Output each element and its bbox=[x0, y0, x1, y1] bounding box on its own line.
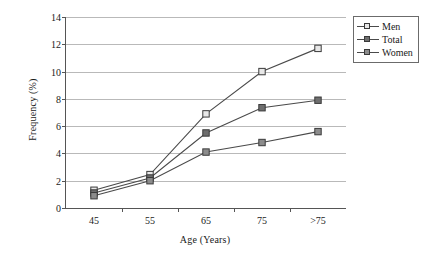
legend-item: Women bbox=[357, 46, 413, 59]
x-axis-title: Age (Years) bbox=[65, 234, 345, 245]
x-tick-mark bbox=[290, 208, 291, 212]
series-line bbox=[94, 132, 318, 196]
data-point-marker bbox=[147, 178, 153, 184]
legend-marker-icon bbox=[357, 47, 379, 58]
y-tick-label: 14 bbox=[51, 12, 61, 23]
data-point-marker bbox=[203, 149, 209, 155]
legend-item: Men bbox=[357, 20, 413, 33]
legend-marker-icon bbox=[357, 21, 379, 32]
x-tick-mark bbox=[178, 208, 179, 212]
y-tick-label: 10 bbox=[51, 66, 61, 77]
y-tick-label: 8 bbox=[56, 93, 61, 104]
y-tick-label: 12 bbox=[51, 39, 61, 50]
data-point-marker bbox=[91, 193, 97, 199]
legend-marker-icon bbox=[357, 34, 379, 45]
data-point-marker bbox=[259, 139, 265, 145]
x-tick-mark bbox=[122, 208, 123, 212]
y-tick-label: 4 bbox=[56, 148, 61, 159]
legend: MenTotalWomen bbox=[353, 16, 419, 63]
data-point-marker bbox=[315, 45, 321, 51]
data-point-marker bbox=[315, 128, 321, 134]
x-tick-label: 45 bbox=[89, 215, 99, 226]
chart-figure: Frequency (%) 02468101214 45556575>75 Ag… bbox=[0, 0, 437, 258]
y-axis-title: Frequency (%) bbox=[27, 40, 38, 180]
plot-area: 02468101214 45556575>75 bbox=[65, 17, 346, 209]
series-layer bbox=[66, 17, 346, 208]
x-tick-mark bbox=[234, 208, 235, 212]
y-tick-mark bbox=[62, 208, 66, 209]
x-tick-label: 75 bbox=[257, 215, 267, 226]
data-point-marker bbox=[315, 97, 321, 103]
data-point-marker bbox=[203, 130, 209, 136]
legend-item: Total bbox=[357, 33, 413, 46]
x-tick-label: 55 bbox=[145, 215, 155, 226]
x-tick-label: >75 bbox=[310, 215, 326, 226]
x-tick-label: 65 bbox=[201, 215, 211, 226]
legend-label: Total bbox=[379, 34, 402, 45]
data-point-marker bbox=[259, 105, 265, 111]
legend-label: Men bbox=[379, 21, 400, 32]
data-point-marker bbox=[203, 111, 209, 117]
y-tick-label: 2 bbox=[56, 175, 61, 186]
data-point-marker bbox=[259, 68, 265, 74]
y-tick-label: 6 bbox=[56, 121, 61, 132]
y-tick-label: 0 bbox=[56, 203, 61, 214]
legend-label: Women bbox=[379, 47, 413, 58]
series-line bbox=[94, 48, 318, 190]
